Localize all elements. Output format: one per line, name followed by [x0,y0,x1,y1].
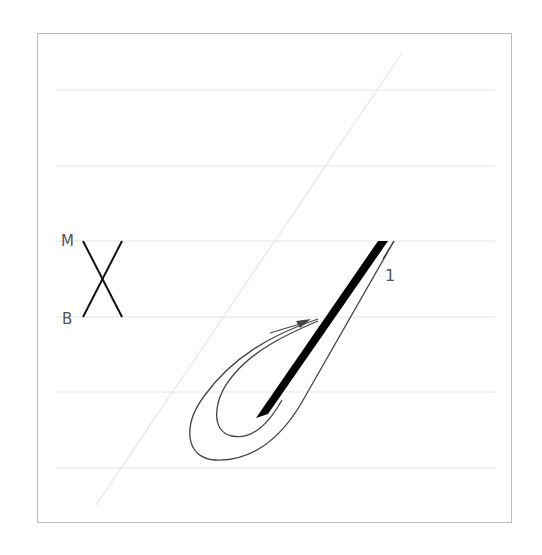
stroke-number: 1 [385,268,395,284]
stroke-direction-path [217,321,318,437]
label-top-m: M [61,234,74,249]
main-stroke [256,241,388,418]
height-cross-icon [83,241,122,317]
letter-diagram [0,0,542,555]
label-bottom-b: B [62,312,72,327]
